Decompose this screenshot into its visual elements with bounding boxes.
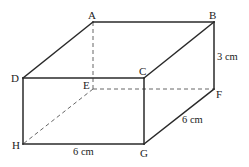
hidden-edges [23,22,214,144]
vertex-label-E: E [83,79,90,91]
edge-GF [144,89,214,144]
visible-edges [23,22,214,144]
vertex-label-B: B [209,9,216,21]
dimension-height-label: 3 cm [217,51,238,62]
edge-DA [23,22,93,78]
dimension-width-label: 6 cm [182,114,203,125]
vertex-label-A: A [88,9,96,21]
vertex-label-G: G [140,147,148,159]
edge-EH [23,89,93,144]
edge-BC [144,22,214,78]
vertex-label-D: D [11,72,19,84]
vertex-label-H: H [12,139,20,151]
vertex-labels: A B C D E F G H [11,9,222,159]
dimension-labels: 3 cm 6 cm 6 cm [73,51,238,157]
vertex-label-F: F [216,88,222,100]
vertex-label-C: C [139,65,146,77]
dimension-length-label: 6 cm [73,146,94,157]
cuboid-diagram: A B C D E F G H 3 cm 6 cm 6 cm [0,0,249,167]
